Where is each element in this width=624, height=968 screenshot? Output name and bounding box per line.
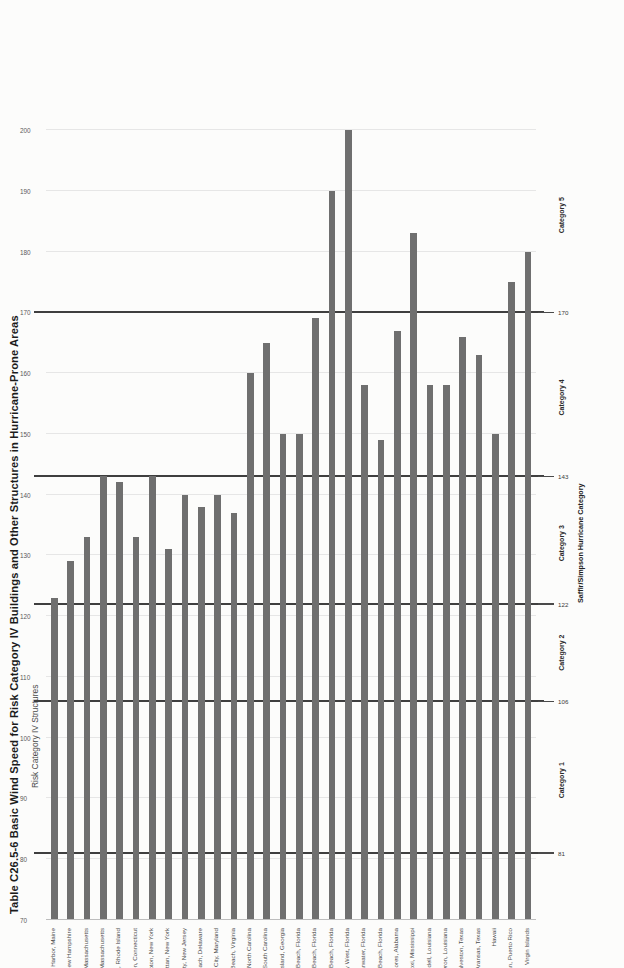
reference-line (34, 475, 544, 477)
bar (492, 434, 499, 920)
value-axis-tick-label: 110 (20, 674, 30, 681)
value-axis-tick-label: 80 (20, 856, 27, 863)
reference-tick (538, 603, 554, 604)
value-axis-tick-label: 150 (20, 431, 31, 438)
bar (508, 282, 515, 920)
value-axis-tick-label: 160 (20, 370, 31, 377)
bar (214, 495, 221, 920)
reference-tick (538, 701, 554, 702)
bar (378, 440, 385, 920)
bar (459, 337, 466, 920)
bar (263, 343, 270, 920)
bar (361, 385, 368, 920)
value-axis-tick-label: 70 (20, 917, 27, 924)
saffir-simpson-band-label: Category 4 (558, 379, 565, 415)
value-axis-tick-label: 180 (20, 249, 31, 256)
value-axis-tick-label: 200 (20, 127, 31, 134)
value-axis-tick-label: 140 (20, 492, 31, 499)
saffir-simpson-band-label: Category 1 (558, 762, 565, 798)
bar (247, 373, 254, 920)
bar (476, 355, 483, 920)
reference-line-value: 122 (558, 601, 568, 608)
bar (410, 233, 417, 920)
bar (329, 191, 336, 920)
gridline (46, 251, 536, 252)
bar (133, 537, 140, 920)
bar (149, 476, 156, 920)
bar (312, 318, 319, 920)
reference-line (34, 700, 544, 702)
reference-line (34, 603, 544, 605)
right-axis-title: Saffir/Simpson Hurricane Category (576, 484, 585, 603)
reference-line-value: 81 (558, 850, 565, 857)
bar (51, 598, 58, 920)
value-axis-tick-label: 170 (20, 309, 31, 316)
bar (525, 252, 532, 920)
value-axis-tick-label: 120 (20, 613, 31, 620)
bar (198, 507, 205, 920)
bar (67, 561, 74, 920)
bar (443, 385, 450, 920)
bar (280, 434, 287, 920)
saffir-simpson-band-label: Category 3 (558, 525, 565, 561)
reference-tick (538, 312, 554, 313)
bar (394, 331, 401, 920)
bar (345, 130, 352, 920)
value-axis-tick-label: 190 (20, 188, 31, 195)
reference-line-value: 143 (558, 473, 568, 480)
chart-area: 7080901001101201301401501601701801902008… (0, 0, 624, 968)
gridline (46, 129, 536, 130)
bar (182, 495, 189, 920)
bar (427, 385, 434, 920)
saffir-simpson-band-label: Category 2 (558, 635, 565, 671)
plot-region: 7080901001101201301401501601701801902008… (46, 130, 536, 920)
axis-baseline (46, 919, 536, 920)
value-axis-tick-label: 130 (20, 552, 31, 559)
gridline (46, 190, 536, 191)
bar (296, 434, 303, 920)
reference-tick (538, 852, 554, 853)
bar (100, 476, 107, 920)
value-axis-tick-label: 100 (20, 735, 31, 742)
bar (165, 549, 172, 920)
reference-line (34, 852, 544, 854)
reference-line (34, 311, 544, 313)
reference-line-value: 170 (558, 309, 568, 316)
reference-line-value: 106 (558, 698, 568, 705)
bar (84, 537, 91, 920)
bar (116, 482, 123, 920)
bar (231, 513, 238, 920)
value-axis-tick-label: 90 (20, 795, 27, 802)
saffir-simpson-band-label: Category 5 (558, 197, 565, 233)
chart-page: Table C26.5-6 Basic Wind Speed for Risk … (0, 0, 624, 968)
reference-tick (538, 476, 554, 477)
